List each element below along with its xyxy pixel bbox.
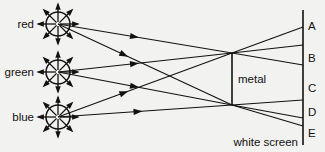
white-screen-label: white screen — [232, 136, 298, 148]
screen-point-label-D: D — [308, 106, 316, 118]
source-label-green: green — [5, 66, 34, 78]
ray-diagram-figure: redgreenbluemetalwhite screenABCDE — [0, 0, 325, 152]
source-label-blue: blue — [12, 111, 34, 123]
diagram-canvas: redgreenbluemetalwhite screenABCDE — [0, 0, 325, 152]
metal-label: metal — [238, 73, 266, 85]
screen-point-label-C: C — [308, 82, 316, 94]
source-label-red: red — [17, 18, 34, 30]
screen-point-label-E: E — [308, 127, 316, 139]
screen-point-label-B: B — [308, 52, 316, 64]
screen-point-label-A: A — [308, 20, 316, 32]
